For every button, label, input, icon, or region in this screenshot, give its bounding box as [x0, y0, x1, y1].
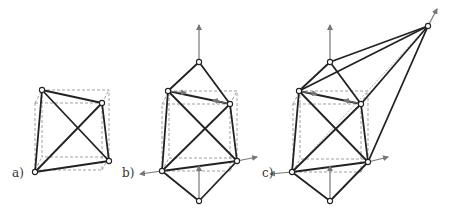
- vertex-node: [234, 158, 239, 163]
- vertex-node: [196, 198, 201, 203]
- edge: [299, 26, 428, 91]
- edge: [361, 104, 368, 162]
- panel-c: c): [262, 9, 437, 204]
- vertex-node: [327, 59, 332, 64]
- edge: [299, 62, 330, 91]
- edge: [292, 172, 330, 201]
- panel-label: c): [262, 166, 273, 180]
- vertex-node: [159, 168, 164, 173]
- edge: [42, 90, 102, 103]
- edge: [35, 161, 109, 172]
- edge: [42, 90, 109, 161]
- vertex-node: [39, 87, 44, 92]
- edge: [168, 91, 237, 161]
- hidden-edge: [292, 26, 428, 172]
- panel-label: a): [12, 166, 24, 180]
- vertex-node: [99, 100, 104, 105]
- panel-a: a): [12, 87, 112, 180]
- edge: [162, 104, 230, 171]
- edge: [230, 104, 237, 161]
- vertex-node: [365, 159, 370, 164]
- vertex-node: [289, 169, 294, 174]
- panel-b: b): [122, 25, 257, 204]
- vertex-node: [227, 101, 232, 106]
- force-arrow-icon: [140, 171, 162, 174]
- panel-label: b): [122, 166, 134, 180]
- vertex-node: [296, 88, 301, 93]
- edge: [162, 171, 199, 201]
- diagram-canvas: a) b) c): [0, 0, 452, 214]
- edge: [102, 103, 109, 161]
- vertex-node: [425, 23, 430, 28]
- edge: [368, 26, 428, 162]
- vertex-node: [165, 88, 170, 93]
- vertex-node: [32, 169, 37, 174]
- vertex-node: [327, 198, 332, 203]
- edge: [292, 104, 361, 172]
- vertex-node: [358, 101, 363, 106]
- edge: [199, 161, 237, 201]
- edge: [35, 103, 102, 172]
- vertex-node: [106, 158, 111, 163]
- edge: [168, 62, 199, 91]
- edge: [330, 162, 368, 201]
- vertex-node: [196, 59, 201, 64]
